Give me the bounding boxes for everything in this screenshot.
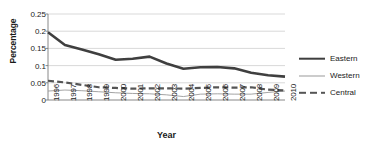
x-tick-label: 2001: [136, 84, 145, 101]
x-tick-label: 1999: [102, 84, 111, 101]
x-tick-label: 1996: [52, 84, 61, 101]
x-tick-label: 2000: [119, 84, 128, 101]
x-tick-label: 2003: [170, 84, 179, 101]
legend-item-western[interactable]: Western: [299, 67, 381, 84]
legend-swatch-icon: [299, 71, 325, 81]
chart-legend: EasternWesternCentral: [299, 50, 381, 101]
x-tick-label: 2002: [153, 84, 162, 101]
line-chart: Percentage 00.050.10.150.20.25 199619971…: [0, 0, 381, 145]
legend-label: Western: [330, 71, 360, 80]
legend-label: Central: [330, 88, 356, 97]
x-tick-label: 2005: [204, 84, 213, 101]
x-tick-label: 2004: [187, 84, 196, 101]
x-tick-label: 2008: [255, 84, 264, 101]
x-tick-label: 1997: [69, 84, 78, 101]
x-tick-label: 2006: [221, 84, 230, 101]
legend-swatch-icon: [299, 54, 325, 64]
legend-swatch-icon: [299, 88, 325, 98]
legend-item-eastern[interactable]: Eastern: [299, 50, 381, 67]
x-tick-label: 2007: [238, 84, 247, 101]
legend-item-central[interactable]: Central: [299, 84, 381, 101]
x-tick-label: 2010: [289, 84, 298, 101]
x-axis-title: Year: [48, 130, 285, 140]
x-tick-label: 1998: [85, 84, 94, 101]
legend-label: Eastern: [330, 54, 358, 63]
x-tick-label: 2009: [272, 84, 281, 101]
